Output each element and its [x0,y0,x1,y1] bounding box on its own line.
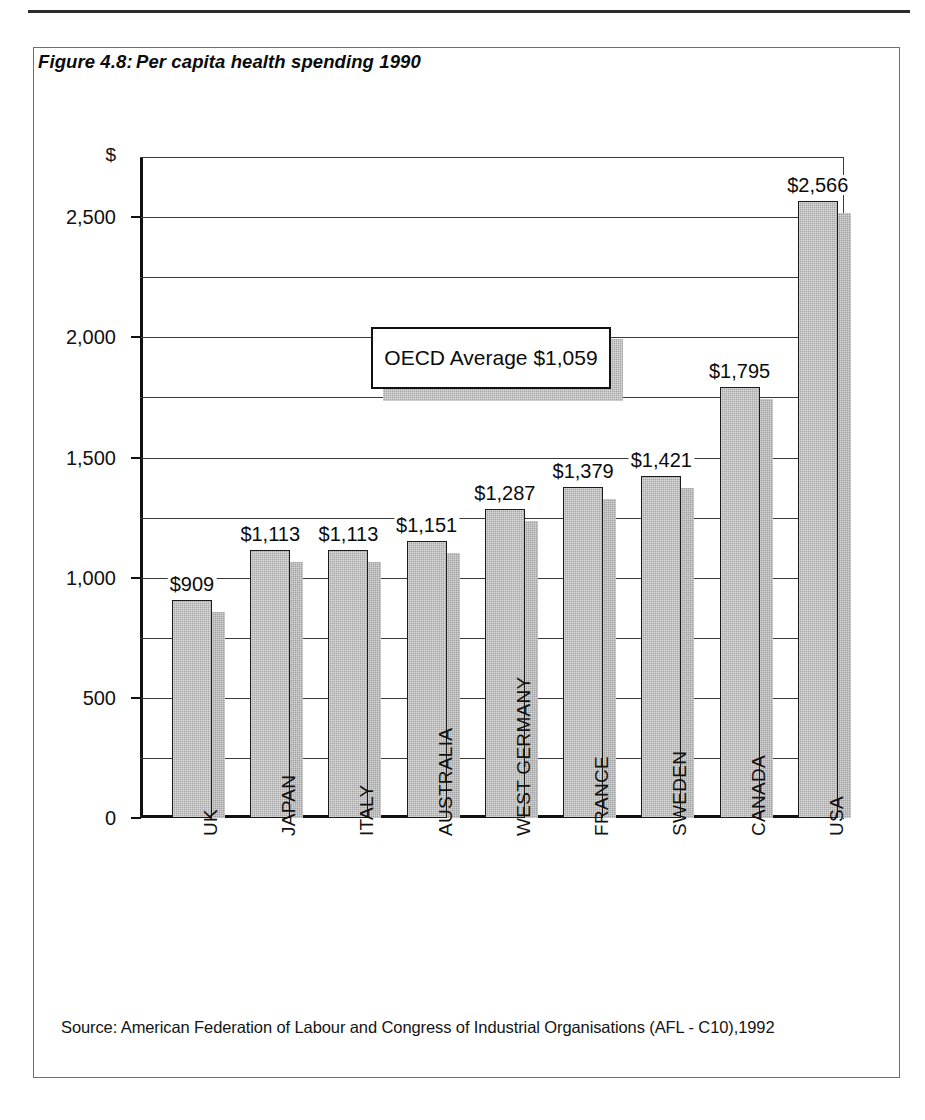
bar-usa[interactable] [798,201,838,818]
category-label-uk: UK [200,809,222,836]
category-label-italy: ITALY [356,785,378,836]
bar-italy[interactable] [328,550,368,818]
bar-value-label: $2,566 [785,175,850,195]
gridline [140,157,844,158]
bar-value-label: $1,113 [238,524,302,544]
category-label-japan: JAPAN [278,775,300,836]
category-label-canada: CANADA [748,755,770,836]
bar-value-label: $909 [168,574,217,594]
category-label-france: FRANCE [591,756,613,836]
gridline [140,277,844,278]
y-axis-tick [131,216,141,218]
oecd-average-label: OECD Average $1,059 [384,346,597,370]
page: Figure 4.8:Per capita health spending 19… [0,0,925,1120]
bar-shadow [212,612,225,818]
oecd-callout-box: OECD Average $1,059 [371,327,611,389]
bar-uk[interactable] [172,600,212,818]
y-axis-label: 2,500 [20,206,116,229]
bar-value-label: $1,113 [317,524,381,544]
category-label-west-germany: WEST GERMANY [513,677,535,837]
category-label-usa: USA [826,796,848,836]
y-axis-label: 1,500 [20,446,116,469]
category-label-australia: AUSTRALIA [435,728,457,836]
y-axis-tick [131,457,141,459]
y-axis-label: 2,000 [20,326,116,349]
bar-value-label: $1,795 [707,361,772,381]
category-label-sweden: SWEDEN [669,751,691,836]
bar-canada[interactable] [720,387,760,818]
bar-value-label: $1,379 [551,461,616,481]
y-axis-tick [131,577,141,579]
bar-chart: 05001,0001,5002,0002,500$ $909$1,113$1,1… [0,0,925,1120]
y-axis-label: 1,000 [20,566,116,589]
source-note: Source: American Federation of Labour an… [61,1018,775,1037]
bar-value-label: $1,421 [629,450,694,470]
bar-value-label: $1,287 [472,483,537,503]
gridline [140,217,844,218]
bar-value-label: $1,151 [394,515,459,535]
y-axis-tick [131,336,141,338]
bar-shadow [838,213,851,818]
y-axis-tick [131,817,141,819]
oecd-average-callout: OECD Average $1,059 [371,327,611,389]
y-axis-unit-label: $ [20,144,116,166]
y-axis-label: 0 [20,807,116,830]
y-axis-label: 500 [20,686,116,709]
bar-shadow [368,562,381,818]
y-axis-tick [131,697,141,699]
